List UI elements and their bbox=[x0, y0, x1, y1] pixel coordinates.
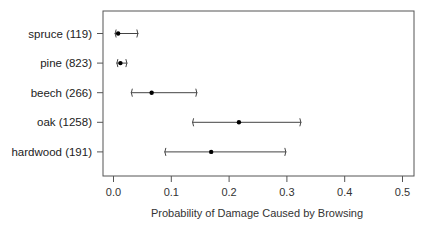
x-tick-label: 0.2 bbox=[221, 186, 236, 198]
interval-row bbox=[115, 30, 139, 38]
point-estimate bbox=[237, 120, 241, 124]
y-tick-label: oak (1258) bbox=[37, 116, 92, 128]
x-tick-label: 0.3 bbox=[279, 186, 294, 198]
dot-interval-chart: spruce (119)pine (823)beech (266)oak (12… bbox=[0, 0, 438, 229]
point-estimate bbox=[209, 150, 213, 154]
point-estimate bbox=[118, 61, 122, 65]
interval-row bbox=[164, 148, 286, 156]
y-axis: spruce (119)pine (823)beech (266)oak (12… bbox=[11, 28, 103, 158]
point-estimate bbox=[149, 91, 153, 95]
y-tick-label: hardwood (191) bbox=[11, 146, 92, 158]
y-tick-label: beech (266) bbox=[31, 87, 93, 99]
y-tick-label: spruce (119) bbox=[28, 28, 92, 40]
x-tick-label: 0.4 bbox=[337, 186, 352, 198]
x-axis: 0.00.10.20.30.40.5 bbox=[106, 176, 410, 198]
x-tick-label: 0.0 bbox=[106, 186, 121, 198]
x-tick-label: 0.5 bbox=[395, 186, 410, 198]
interval-row bbox=[116, 59, 127, 67]
point-estimate bbox=[116, 31, 120, 35]
interval-row bbox=[192, 118, 301, 126]
x-tick-label: 0.1 bbox=[164, 186, 179, 198]
interval-row bbox=[131, 89, 197, 97]
y-tick-label: pine (823) bbox=[40, 57, 92, 69]
interval-series bbox=[115, 30, 302, 156]
x-axis-label: Probability of Damage Caused by Browsing bbox=[151, 207, 363, 219]
